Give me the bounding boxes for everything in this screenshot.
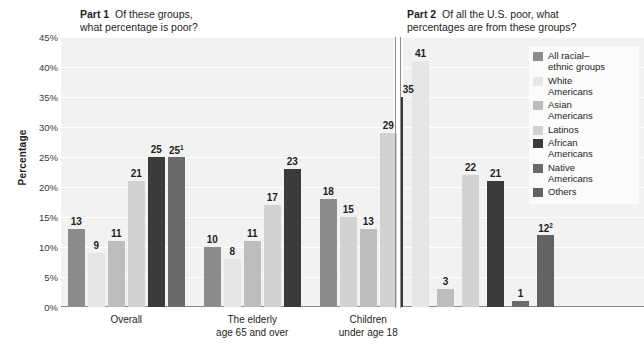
bar: [108, 241, 125, 307]
bar: [462, 175, 479, 307]
bar: [512, 301, 529, 307]
y-tick-15: 15%: [4, 212, 58, 223]
bar: [412, 61, 429, 307]
legend-item: WhiteAmericans: [533, 75, 636, 97]
gridline-25: [61, 157, 394, 158]
bar-value-label: 11: [247, 228, 258, 239]
gridline-35: [61, 97, 394, 98]
legend-swatch-icon: [533, 188, 543, 197]
legend-label: AsianAmericans: [548, 99, 593, 121]
legend: All racial–ethnic groupsWhiteAmericansAs…: [529, 46, 639, 204]
bar: [264, 205, 281, 307]
gridline-5: [403, 277, 644, 278]
legend-item: Others: [533, 186, 636, 197]
legend-label-line2: Americans: [548, 110, 593, 121]
legend-label-line2: Americans: [548, 173, 593, 184]
bar: [537, 235, 554, 307]
bar-value-label: 29: [383, 120, 394, 131]
y-tick-30: 30%: [4, 122, 58, 133]
bar-value-label: 41: [415, 48, 426, 59]
bar-value-label: 17: [267, 192, 278, 203]
bar-value-label: 10: [207, 234, 218, 245]
group-x-label: Overall: [110, 314, 142, 327]
bar: [360, 229, 377, 307]
group-x-label: Childrenunder age 18: [339, 314, 398, 339]
bar: [148, 157, 165, 307]
legend-label-line2: ethnic groups: [548, 61, 605, 72]
part1-plot-area: [61, 37, 394, 307]
panel-divider-left: [395, 37, 396, 308]
y-tick-45: 45%: [4, 32, 58, 43]
gridline-15: [403, 217, 644, 218]
bar-value-label: 11: [111, 228, 122, 239]
legend-label: NativeAmericans: [548, 162, 593, 184]
bar-value-label: 3: [443, 276, 449, 287]
legend-item: NativeAmericans: [533, 162, 636, 184]
y-tick-10: 10%: [4, 242, 58, 253]
legend-label: WhiteAmericans: [548, 75, 593, 97]
y-tick-0: 0%: [4, 302, 58, 313]
legend-label-line2: Americans: [548, 148, 593, 159]
y-tick-5: 5%: [4, 272, 58, 283]
bar-value-label: 15: [343, 204, 354, 215]
y-axis-ticks: 45%40%35%30%25%20%15%10%5%0%: [0, 0, 58, 344]
legend-label-line1: White: [548, 75, 593, 86]
gridline-30: [61, 127, 394, 128]
legend-item: Latinos: [533, 124, 636, 135]
bar: [128, 181, 145, 307]
y-tick-20: 20%: [4, 182, 58, 193]
part2-title-strong: Part 2: [407, 8, 436, 20]
legend-label-line1: All racial–: [548, 50, 605, 61]
legend-label: All racial–ethnic groups: [548, 50, 605, 72]
legend-label-line1: African: [548, 137, 593, 148]
bar-value-label: 21: [490, 168, 501, 179]
bar: [244, 241, 261, 307]
group-x-label-line1: Overall: [110, 314, 142, 327]
bar: [340, 217, 357, 307]
gridline-45: [403, 37, 644, 38]
group-x-label: The elderlyage 65 and over: [216, 314, 288, 339]
part1-title-strong: Part 1: [80, 8, 109, 20]
poverty-bar-chart-figure: Part 1 Of these groups, what percentage …: [0, 0, 644, 344]
bar-value-label: 8: [229, 246, 235, 257]
bar-value-label: 13: [71, 216, 82, 227]
bar-value-label: 251: [169, 144, 184, 156]
panel-divider-right: [400, 37, 401, 308]
legend-item: AfricanAmericans: [533, 137, 636, 159]
part2-title: Part 2 Of all the U.S. poor, what percen…: [407, 8, 576, 33]
legend-label: AfricanAmericans: [548, 137, 593, 159]
bar-value-label: 23: [287, 156, 298, 167]
bar-value-footnote: 1: [180, 144, 184, 151]
part1-title: Part 1 Of these groups, what percentage …: [80, 8, 198, 33]
bar-value-label: 9: [93, 240, 99, 251]
gridline-10: [403, 247, 644, 248]
legend-label-line1: Native: [548, 162, 593, 173]
bar: [437, 289, 454, 307]
legend-swatch-icon: [533, 52, 543, 61]
bar: [204, 247, 221, 307]
bar-value-label: 122: [538, 222, 553, 234]
legend-label: Others: [548, 186, 577, 197]
y-tick-35: 35%: [4, 92, 58, 103]
bar-value-label: 1: [518, 288, 524, 299]
part1-title-line2: what percentage is poor?: [80, 21, 198, 33]
group-x-label-line1: Children: [339, 314, 398, 327]
bar-value-label: 22: [465, 162, 476, 173]
bar: [88, 253, 105, 307]
bar: [487, 181, 504, 307]
legend-item: AsianAmericans: [533, 99, 636, 121]
bar-value-label: 18: [323, 186, 334, 197]
legend-label-line1: Others: [548, 186, 577, 197]
part2-title-rest: Of all the U.S. poor, what: [442, 8, 559, 20]
gridline-45: [61, 37, 394, 38]
bar: [168, 157, 185, 307]
gridline-40: [61, 67, 394, 68]
legend-swatch-icon: [533, 101, 543, 110]
gridline-20: [61, 187, 394, 188]
bar-value-label: 13: [363, 216, 374, 227]
legend-item: All racial–ethnic groups: [533, 50, 636, 72]
bar-value-label: 21: [131, 168, 142, 179]
bar-value-label: 25: [151, 144, 162, 155]
legend-label-line2: Americans: [548, 86, 593, 97]
legend-swatch-icon: [533, 77, 543, 86]
